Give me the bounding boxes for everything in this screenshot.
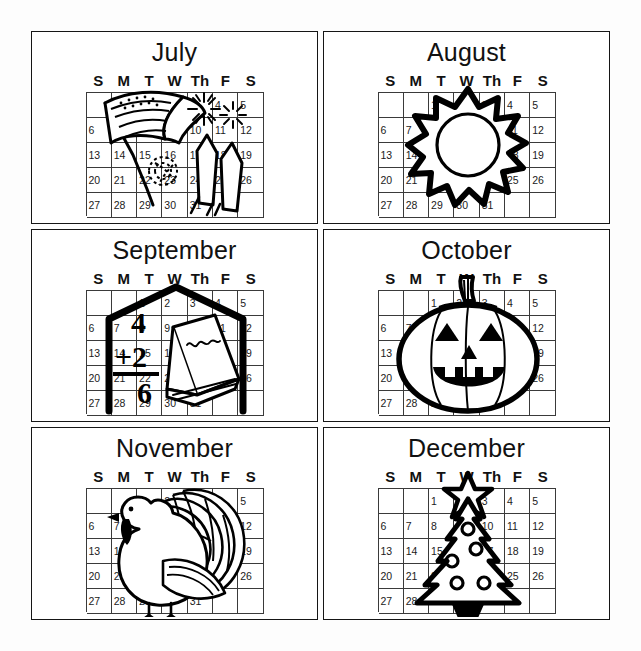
day-cell[interactable]: 3 — [188, 489, 213, 514]
day-cell[interactable]: 11 — [213, 514, 238, 539]
day-cell[interactable]: 13 — [379, 539, 404, 564]
day-cell[interactable] — [238, 391, 263, 416]
day-cell[interactable]: 18 — [213, 341, 238, 366]
day-cell[interactable] — [112, 489, 137, 514]
day-cell[interactable]: 26 — [238, 366, 263, 391]
day-cell[interactable]: 2 — [454, 291, 479, 316]
day-cell[interactable]: 24 — [480, 168, 505, 193]
day-cell[interactable]: 2 — [454, 93, 479, 118]
month-panel-december[interactable]: DecemberSMTWThFS123456789101112131415161… — [323, 427, 610, 620]
day-cell[interactable]: 12 — [238, 316, 263, 341]
day-cell[interactable] — [404, 489, 429, 514]
day-cell[interactable]: 24 — [188, 564, 213, 589]
day-cell[interactable]: 19 — [238, 143, 263, 168]
day-cell[interactable]: 4 — [505, 93, 530, 118]
day-cell[interactable]: 11 — [213, 118, 238, 143]
day-cell[interactable]: 31 — [480, 193, 505, 218]
day-cell[interactable]: 19 — [238, 341, 263, 366]
day-cell[interactable]: 13 — [87, 143, 112, 168]
day-cell[interactable]: 19 — [238, 539, 263, 564]
day-cell[interactable]: 10 — [188, 316, 213, 341]
day-cell[interactable]: 14 — [404, 341, 429, 366]
day-cell[interactable]: 21 — [404, 168, 429, 193]
day-cell[interactable]: 15 — [137, 143, 162, 168]
day-cell[interactable]: 15 — [137, 341, 162, 366]
day-cell[interactable]: 17 — [480, 539, 505, 564]
day-cell[interactable]: 7 — [112, 118, 137, 143]
day-cell[interactable]: 4 — [505, 291, 530, 316]
day-cell[interactable]: 9 — [454, 514, 479, 539]
day-cell[interactable]: 14 — [112, 341, 137, 366]
day-cell[interactable]: 14 — [112, 143, 137, 168]
day-cell[interactable]: 26 — [530, 564, 555, 589]
day-cell[interactable] — [87, 93, 112, 118]
day-cell[interactable]: 15 — [137, 539, 162, 564]
day-cell[interactable]: 8 — [429, 118, 454, 143]
day-cell[interactable] — [379, 93, 404, 118]
day-cell[interactable]: 25 — [213, 366, 238, 391]
day-cell[interactable]: 30 — [454, 193, 479, 218]
day-cell[interactable]: 17 — [480, 341, 505, 366]
day-cell[interactable] — [112, 93, 137, 118]
day-cell[interactable]: 20 — [379, 168, 404, 193]
day-cell[interactable]: 25 — [505, 564, 530, 589]
day-cell[interactable]: 20 — [87, 168, 112, 193]
day-cell[interactable] — [530, 391, 555, 416]
day-cell[interactable]: 18 — [505, 143, 530, 168]
day-cell[interactable]: 21 — [112, 564, 137, 589]
day-cell[interactable]: 1 — [429, 93, 454, 118]
day-cell[interactable]: 7 — [112, 316, 137, 341]
day-cell[interactable]: 11 — [213, 316, 238, 341]
day-cell[interactable]: 26 — [238, 168, 263, 193]
day-cell[interactable]: 19 — [530, 539, 555, 564]
day-cell[interactable]: 22 — [429, 168, 454, 193]
day-cell[interactable]: 22 — [137, 564, 162, 589]
month-panel-august[interactable]: AugustSMTWThFS12345678910111213141516171… — [323, 31, 610, 224]
day-cell[interactable]: 12 — [238, 514, 263, 539]
day-cell[interactable]: 11 — [505, 118, 530, 143]
day-cell[interactable]: 29 — [429, 193, 454, 218]
day-cell[interactable]: 6 — [379, 316, 404, 341]
day-cell[interactable]: 13 — [379, 341, 404, 366]
day-cell[interactable]: 27 — [87, 589, 112, 614]
day-cell[interactable] — [505, 391, 530, 416]
day-cell[interactable]: 27 — [379, 589, 404, 614]
day-cell[interactable]: 24 — [188, 366, 213, 391]
day-cell[interactable]: 13 — [87, 341, 112, 366]
day-cell[interactable]: 23 — [162, 564, 187, 589]
day-cell[interactable]: 16 — [162, 341, 187, 366]
day-cell[interactable]: 22 — [137, 168, 162, 193]
day-cell[interactable]: 27 — [87, 193, 112, 218]
day-cell[interactable]: 7 — [112, 514, 137, 539]
day-cell[interactable]: 6 — [87, 514, 112, 539]
day-cell[interactable]: 25 — [213, 564, 238, 589]
day-cell[interactable]: 10 — [188, 118, 213, 143]
day-cell[interactable]: 8 — [429, 514, 454, 539]
day-cell[interactable]: 29 — [137, 193, 162, 218]
day-cell[interactable] — [404, 291, 429, 316]
day-cell[interactable] — [112, 291, 137, 316]
day-cell[interactable]: 30 — [454, 589, 479, 614]
day-cell[interactable]: 14 — [112, 539, 137, 564]
day-cell[interactable]: 27 — [379, 193, 404, 218]
day-cell[interactable]: 21 — [404, 366, 429, 391]
day-cell[interactable]: 26 — [238, 564, 263, 589]
day-cell[interactable]: 3 — [188, 93, 213, 118]
day-cell[interactable]: 8 — [137, 118, 162, 143]
day-cell[interactable]: 3 — [188, 291, 213, 316]
day-cell[interactable]: 18 — [505, 341, 530, 366]
day-cell[interactable]: 7 — [404, 118, 429, 143]
day-cell[interactable]: 22 — [429, 366, 454, 391]
day-cell[interactable] — [379, 291, 404, 316]
day-cell[interactable] — [404, 93, 429, 118]
day-cell[interactable]: 6 — [87, 316, 112, 341]
day-cell[interactable]: 10 — [480, 514, 505, 539]
day-cell[interactable]: 15 — [429, 341, 454, 366]
day-cell[interactable]: 27 — [379, 391, 404, 416]
day-cell[interactable]: 12 — [530, 316, 555, 341]
day-cell[interactable]: 6 — [87, 118, 112, 143]
day-cell[interactable]: 26 — [530, 366, 555, 391]
day-cell[interactable] — [87, 489, 112, 514]
day-cell[interactable] — [213, 193, 238, 218]
day-cell[interactable]: 14 — [404, 143, 429, 168]
